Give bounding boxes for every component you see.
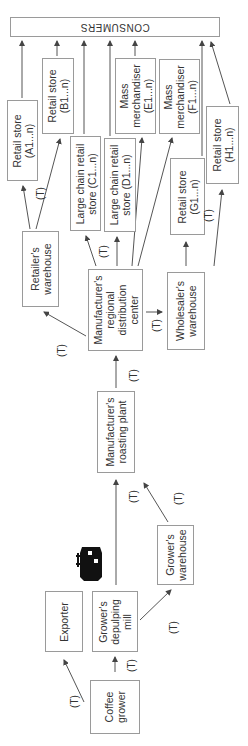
retail-store-h-line2: (H1...n) — [223, 118, 235, 171]
consumers-label: CONSUMERS — [80, 21, 150, 33]
retail-store-b-box: Retail store(B1...n) — [42, 58, 74, 134]
retail-store-g-box: Retail store(G1...n) — [170, 158, 205, 235]
wholesalers-warehouse-box: Wholesaler'swarehouse — [167, 272, 205, 350]
mass-merchandiser-e-box: Massmerchandiser(E1...n) — [115, 58, 156, 134]
transport-label: (T) — [203, 209, 214, 222]
retail-store-h-line1: Retail store — [211, 118, 223, 171]
depulping-mill-box: Grower'sdepulpingmill — [92, 591, 138, 652]
large-chain-c-line2: store (C1...n) — [86, 143, 98, 224]
mass-e-line2: merchandiser — [130, 64, 142, 128]
growers-warehouse-box: Grower'swarehouse — [157, 525, 194, 585]
roasting-line2: roasting plant — [116, 397, 128, 466]
transport-label: (T) — [151, 319, 162, 332]
consumers-box: CONSUMERS — [10, 17, 220, 37]
mfr-dc-line1: Manufacturer's — [92, 275, 104, 344]
depulping-line1: Grower's — [97, 599, 109, 645]
mass-e-line3: (E1...n) — [142, 64, 154, 128]
retail-store-a-line2: (A1...n) — [23, 114, 35, 167]
retail-store-b-line2: (B1...n) — [58, 69, 70, 122]
roasting-line1: Manufacturer's — [104, 397, 116, 466]
transport-label: (T) — [128, 490, 139, 503]
transport-label: (T) — [126, 659, 137, 672]
depulping-line2: depulping — [109, 599, 121, 645]
ship-icon — [76, 545, 106, 581]
large-chain-d-line1: Large chain retail — [108, 145, 120, 226]
retail-store-b-line1: Retail store — [46, 69, 58, 122]
mass-merchandiser-f-box: Massmerchandiser(F1...n) — [159, 59, 200, 134]
exporter-label: Exporter — [58, 602, 70, 642]
retail-store-a-box: Retail store(A1...n) — [7, 100, 38, 181]
large-chain-d-line2: store (D1...n) — [120, 145, 132, 226]
retailers-warehouse-line1: Retailer's — [29, 243, 41, 294]
mfr-dc-line3: distribution — [116, 275, 128, 344]
coffee-grower-line2: grower — [115, 691, 127, 723]
coffee-grower-box: Coffeegrower — [90, 680, 140, 734]
transport-label: (T) — [69, 695, 80, 708]
mass-e-line1: Mass — [118, 64, 130, 128]
depulping-line3: mill — [121, 599, 133, 645]
wholesalers-warehouse-line1: Wholesaler's — [174, 281, 186, 341]
retail-store-g-line1: Retail store — [176, 170, 188, 223]
retail-store-a-line1: Retail store — [11, 114, 23, 167]
mass-f-line3: (F1...n) — [186, 65, 198, 129]
retail-store-h-box: Retail store(H1...n) — [206, 106, 239, 184]
transport-label: (T) — [128, 369, 139, 382]
transport-label: (T) — [168, 621, 179, 634]
large-chain-d-box: Large chain retailstore (D1...n) — [104, 138, 136, 232]
transport-label: (T) — [98, 245, 109, 258]
retailers-warehouse-box: Retailer'swarehouse — [22, 231, 59, 307]
wholesalers-warehouse-line2: warehouse — [186, 281, 198, 341]
mfr-dc-line2: regional — [104, 275, 116, 344]
large-chain-c-box: Large chain retailstore (C1...n) — [70, 136, 101, 231]
large-chain-c-line1: Large chain retail — [74, 143, 86, 224]
growers-warehouse-line2: warehouse — [176, 529, 188, 580]
exporter-box: Exporter — [45, 591, 83, 652]
retailers-warehouse-line2: warehouse — [41, 243, 53, 294]
transport-label: (T) — [35, 187, 46, 200]
roasting-plant-box: Manufacturer'sroasting plant — [97, 391, 135, 473]
transport-label: (T) — [56, 344, 67, 357]
transport-label: (T) — [173, 492, 184, 505]
mass-f-line2: merchandiser — [174, 65, 186, 129]
coffee-grower-line1: Coffee — [103, 691, 115, 723]
manufacturers-distribution-center-box: Manufacturer'sregionaldistributioncenter — [88, 269, 143, 351]
mass-f-line1: Mass — [162, 65, 174, 129]
mfr-dc-line4: center — [128, 275, 140, 344]
growers-warehouse-line1: Grower's — [164, 529, 176, 580]
retail-store-g-line2: (G1...n) — [188, 170, 200, 223]
